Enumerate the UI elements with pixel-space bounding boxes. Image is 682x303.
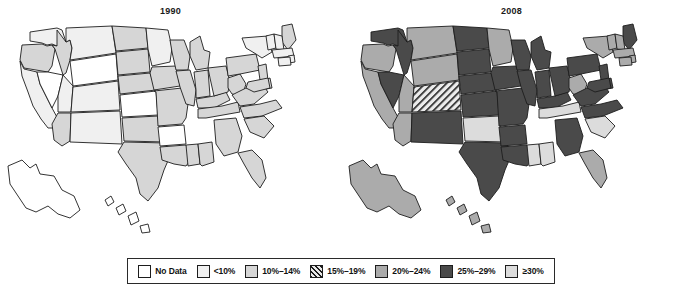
state-fl (579, 150, 607, 188)
state-hi-island-4 (140, 224, 150, 233)
legend-label-15-19: 15%–19% (327, 266, 365, 276)
legend-swatch-10-14 (245, 265, 258, 278)
state-sc (244, 116, 274, 138)
state-ks (120, 91, 158, 117)
state-nj (258, 64, 268, 80)
state-or (361, 44, 396, 72)
state-nm (70, 111, 122, 144)
legend-swatch-ge30 (505, 265, 518, 278)
state-wi (511, 40, 531, 70)
state-hi-island-1 (105, 196, 114, 206)
state-ak (8, 160, 80, 218)
state-oh (549, 66, 571, 96)
map-panel-1990: 1990 (0, 0, 341, 252)
state-nd (112, 26, 148, 51)
map-title-1990: 1990 (0, 6, 341, 16)
state-mn (487, 28, 513, 66)
state-me (282, 24, 296, 50)
state-mi (190, 36, 210, 70)
state-nj (599, 64, 609, 80)
legend-swatch-15-19 (310, 265, 323, 278)
state-hi-island-2 (116, 204, 126, 215)
state-pa (567, 54, 601, 76)
state-or (20, 44, 55, 72)
state-me (623, 24, 637, 50)
us-map-2008 (341, 18, 682, 248)
state-nh (615, 34, 625, 50)
state-pa (226, 54, 260, 76)
legend-label-ge30: ≥30% (522, 266, 543, 276)
state-hi-island-3 (128, 212, 139, 225)
state-in (194, 70, 210, 98)
legend-swatch-lt10 (197, 265, 210, 278)
us-map-1990 (0, 18, 341, 248)
map-panel-2008: 2008 (341, 0, 682, 252)
state-sd (116, 49, 150, 75)
state-al (198, 142, 214, 166)
state-hi-island-3 (469, 212, 480, 225)
state-nh (274, 34, 284, 50)
map-title-2008: 2008 (341, 6, 682, 16)
state-oh (208, 66, 230, 96)
state-nd (453, 26, 489, 51)
state-ks (461, 91, 499, 117)
state-mi (531, 36, 551, 70)
legend-swatch-25-29 (440, 265, 453, 278)
state-hi-island-2 (457, 204, 467, 215)
legend-swatch-20-24 (375, 265, 388, 278)
state-sd (457, 49, 491, 75)
state-ar (499, 125, 527, 146)
obesity-map-figure: 1990 2008 No Data<10%10%–14%15%–19%20%–2… (0, 0, 682, 303)
state-in (535, 70, 551, 98)
legend: No Data<10%10%–14%15%–19%20%–24%25%–29%≥… (127, 258, 555, 284)
state-ga (214, 118, 242, 156)
state-al (539, 142, 555, 166)
state-ar (158, 125, 186, 146)
legend-item-15-19: 15%–19% (305, 265, 370, 278)
state-az (393, 113, 412, 146)
legend-item-lt10: <10% (192, 265, 241, 278)
legend-swatch-no-data (138, 265, 151, 278)
legend-item-10-14: 10%–14% (240, 265, 305, 278)
state-hi-island-1 (446, 196, 455, 206)
legend-item-no-data: No Data (133, 265, 191, 278)
state-ct (619, 57, 632, 66)
state-hi-island-4 (481, 224, 491, 233)
legend-item-20-24: 20%–24% (370, 265, 435, 278)
state-sc (585, 116, 615, 138)
legend-item-25-29: 25%–29% (435, 265, 500, 278)
legend-label-no-data: No Data (155, 266, 186, 276)
legend-label-25-29: 25%–29% (457, 266, 495, 276)
state-ct (278, 57, 291, 66)
legend-item-ge30: ≥30% (500, 265, 548, 278)
legend-label-lt10: <10% (214, 266, 236, 276)
state-az (52, 113, 71, 146)
state-mn (146, 28, 172, 66)
state-wi (170, 40, 190, 70)
legend-label-10-14: 10%–14% (262, 266, 300, 276)
state-ga (555, 118, 583, 156)
state-ak (349, 160, 421, 218)
state-nm (411, 111, 463, 144)
state-fl (238, 150, 266, 188)
legend-label-20-24: 20%–24% (392, 266, 430, 276)
